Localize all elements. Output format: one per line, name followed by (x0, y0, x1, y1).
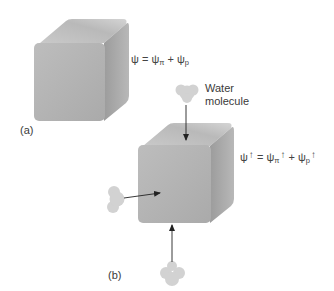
cell-cube-a (34, 19, 129, 121)
p-subscript: p (185, 58, 189, 67)
panel-b-label: (b) (108, 270, 121, 281)
water-molecule-label-line1: Water (205, 83, 234, 94)
panel-a-label: (a) (20, 125, 33, 136)
plus-sign: + (289, 151, 295, 163)
pi-subscript: π (159, 58, 164, 67)
equals-sign: = (257, 151, 263, 163)
psi-symbol: ψ (240, 151, 248, 163)
psi-p-symbol: ψ (177, 53, 185, 65)
psi-symbol: ψ (131, 53, 139, 65)
water-molecule-left-icon (107, 186, 125, 213)
cube-b-front-face (138, 145, 211, 223)
diagram-graphics (0, 0, 334, 291)
water-molecule-bottom-icon (160, 261, 185, 286)
pi-subscript: π (274, 156, 279, 165)
equation-a: ψ = ψπ + ψp (131, 54, 189, 67)
up-arrow-icon: ↑ (280, 149, 285, 160)
water-molecule-label-line2: molecule (205, 96, 249, 107)
cube-a-front-face (34, 43, 105, 121)
water-molecule-top-icon (176, 85, 199, 104)
equation-b: ψ↑ = ψπ↑ + ψp↑ (240, 152, 316, 165)
water-potential-diagram: ψ = ψπ + ψp (a) Water molecule ψ↑ = ψπ↑ … (0, 0, 334, 291)
equals-sign: = (142, 53, 148, 65)
p-subscript: p (306, 156, 310, 165)
plus-sign: + (168, 53, 174, 65)
psi-p-symbol: ψ (298, 151, 306, 163)
up-arrow-icon: ↑ (311, 149, 316, 160)
up-arrow-icon: ↑ (249, 149, 254, 160)
